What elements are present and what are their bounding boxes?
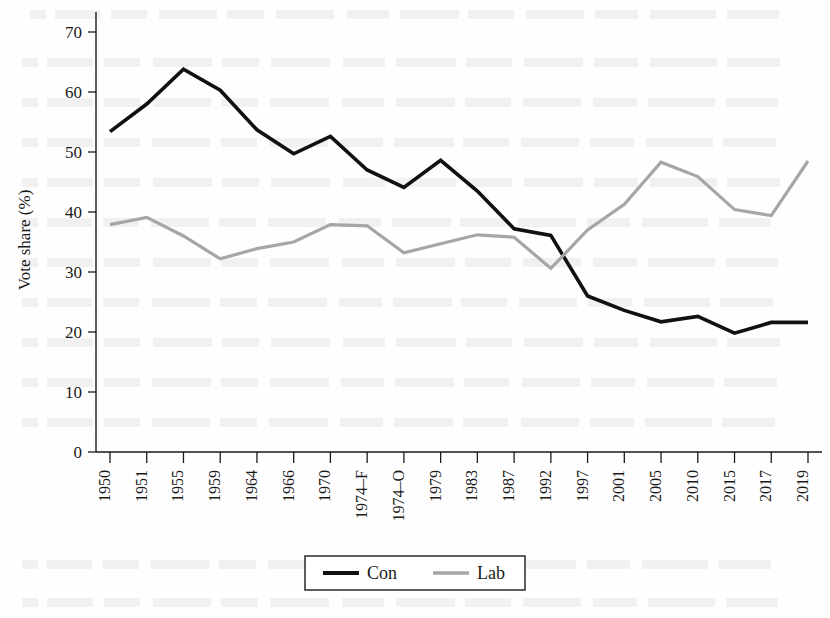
x-tick-label: 1966 — [280, 470, 297, 502]
x-tick-label: 1992 — [537, 470, 554, 502]
x-tick-label: 2017 — [757, 470, 774, 502]
data-series-group — [110, 69, 808, 333]
x-tick-label: 1970 — [316, 470, 333, 502]
x-tick-label: 2010 — [684, 470, 701, 502]
y-tick-label: 20 — [65, 323, 82, 342]
x-tick-label: 2019 — [794, 470, 811, 502]
x-axis: 19501951195519591964196619701974–F1974–O… — [96, 452, 811, 522]
legend-label-lab: Lab — [477, 563, 505, 583]
x-tick-label: 1951 — [133, 470, 150, 502]
x-tick-label: 1979 — [427, 470, 444, 502]
y-axis: 010203040506070 — [65, 23, 96, 462]
vote-share-line-chart: 010203040506070 195019511955195919641966… — [0, 0, 830, 618]
y-tick-label: 50 — [65, 143, 82, 162]
y-tick-label: 10 — [65, 383, 82, 402]
x-tick-label: 2015 — [721, 470, 738, 502]
x-tick-label: 1955 — [169, 470, 186, 502]
legend-label-con: Con — [367, 563, 397, 583]
x-tick-label: 1950 — [96, 470, 113, 502]
series-line-con — [110, 69, 808, 333]
x-tick-label: 2005 — [647, 470, 664, 502]
x-tick-label: 1974–F — [353, 470, 370, 519]
x-tick-label: 1964 — [243, 470, 260, 502]
chart-legend: ConLab — [305, 556, 525, 590]
x-tick-label: 2001 — [610, 470, 627, 502]
y-tick-label: 70 — [65, 23, 82, 42]
x-tick-label: 1974–O — [390, 470, 407, 522]
x-tick-label: 1997 — [574, 470, 591, 502]
y-tick-label: 60 — [65, 83, 82, 102]
y-tick-label: 40 — [65, 203, 82, 222]
x-tick-label: 1959 — [206, 470, 223, 502]
x-tick-label: 1983 — [463, 470, 480, 502]
y-tick-label: 0 — [74, 443, 83, 462]
x-tick-label: 1987 — [500, 470, 517, 502]
y-tick-label: 30 — [65, 263, 82, 282]
chart-canvas: 010203040506070 195019511955195919641966… — [0, 0, 830, 618]
y-axis-title: Vote share (%) — [15, 190, 34, 291]
